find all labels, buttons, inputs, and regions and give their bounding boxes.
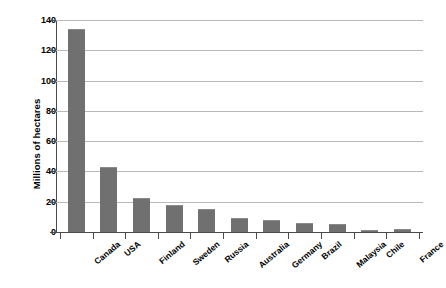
bar-finland (133, 198, 150, 232)
x-axis-labels: CanadaUSAFinlandSwedenRussiaAustraliaGer… (0, 239, 437, 288)
bar-russia (198, 209, 215, 232)
x-label-france: France (418, 239, 446, 265)
gridline-100 (56, 81, 423, 82)
x-label-chile: Chile (384, 239, 406, 260)
y-axis-ticks: 020406080100120140 (0, 20, 56, 233)
x-label-finland: Finland (158, 239, 188, 266)
bar-usa (100, 167, 117, 232)
x-label-russia: Russia (222, 239, 250, 265)
bar-chile (361, 230, 378, 232)
bar-france (394, 229, 411, 232)
bar-canada (68, 29, 85, 232)
x-label-canada: Canada (92, 239, 122, 266)
bar-australia (231, 218, 248, 232)
x-label-malaysia: Malaysia (354, 239, 388, 269)
gridline-120 (56, 50, 423, 51)
plot-area (56, 20, 423, 232)
x-label-usa: USA (122, 239, 142, 258)
bar-germany (263, 220, 280, 232)
bar-brazil (296, 223, 313, 232)
gridline-60 (56, 141, 423, 142)
x-label-brazil: Brazil (319, 239, 343, 262)
gridline-140 (56, 20, 423, 21)
x-label-sweden: Sweden (191, 239, 222, 267)
bar-sweden (166, 205, 183, 232)
gridline-80 (56, 111, 423, 112)
x-label-australia: Australia (257, 239, 291, 270)
x-label-germany: Germany (290, 239, 325, 270)
bar-malaysia (329, 224, 346, 232)
